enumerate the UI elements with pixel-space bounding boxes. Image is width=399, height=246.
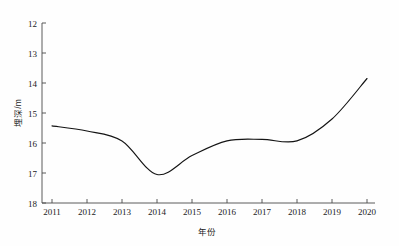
x-tick-label: 2017 [253, 207, 272, 217]
y-axis-title: 埋深/m [13, 99, 23, 126]
y-tick-marks [42, 23, 46, 203]
y-tick-label: 14 [28, 79, 38, 89]
x-tick-label: 2012 [78, 207, 96, 217]
x-tick-label: 2018 [288, 207, 307, 217]
x-tick-labels: 2011 2012 2013 2014 2015 2016 2017 2018 … [43, 207, 376, 217]
y-tick-label: 18 [28, 199, 38, 209]
axis-group [42, 23, 375, 203]
x-tick-marks [52, 199, 367, 203]
x-tick-label: 2011 [43, 207, 61, 217]
chart-figure: 12 13 14 15 16 17 18 2011 2012 2013 20 [0, 0, 399, 246]
y-tick-label: 16 [28, 139, 38, 149]
x-tick-label: 2013 [113, 207, 132, 217]
x-tick-label: 2020 [358, 207, 377, 217]
line-chart-canvas: 12 13 14 15 16 17 18 2011 2012 2013 20 [0, 0, 399, 246]
data-series-line [52, 79, 367, 175]
x-tick-label: 2015 [183, 207, 202, 217]
x-tick-label: 2016 [218, 207, 237, 217]
x-axis-title: 年份 [198, 227, 216, 237]
y-tick-label: 13 [28, 49, 38, 59]
x-tick-label: 2014 [148, 207, 167, 217]
y-tick-label: 12 [28, 19, 37, 29]
y-tick-labels: 12 13 14 15 16 17 18 [28, 19, 38, 209]
y-tick-label: 15 [28, 109, 38, 119]
y-tick-label: 17 [28, 169, 38, 179]
x-tick-label: 2019 [323, 207, 342, 217]
